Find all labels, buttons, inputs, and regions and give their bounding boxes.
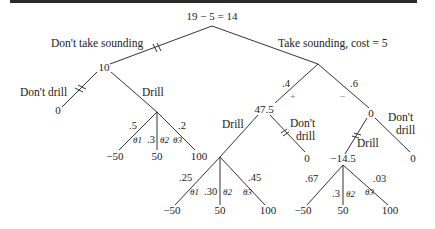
sign-positive: + bbox=[290, 91, 296, 102]
prob-positive: .4 bbox=[282, 78, 291, 89]
label-dont-take-sounding: Don't take sounding bbox=[51, 37, 143, 50]
prune-mark bbox=[157, 43, 161, 51]
prob-negative: .6 bbox=[350, 78, 358, 89]
label-dont-drill-positive-2: drill bbox=[296, 130, 315, 142]
label-drill-positive: Drill bbox=[222, 118, 244, 130]
state-label: θ2 bbox=[223, 187, 232, 197]
prob: .3 bbox=[147, 134, 155, 145]
label-drill-negative: Drill bbox=[357, 137, 379, 149]
state-label: θ2 bbox=[160, 135, 169, 145]
prob: .25 bbox=[179, 172, 192, 183]
state-label: θ1 bbox=[133, 135, 142, 145]
edge-outcome bbox=[343, 165, 388, 205]
label-drill-1: Drill bbox=[142, 86, 164, 98]
payoff: −50 bbox=[163, 204, 181, 216]
node-value-positive: 47.5 bbox=[254, 103, 274, 115]
payoff: −50 bbox=[294, 204, 312, 216]
state-label: θ2 bbox=[346, 189, 355, 199]
label-dont-drill-negative-2: drill bbox=[396, 124, 415, 136]
payoff-dont-drill-negative: 0 bbox=[410, 152, 416, 164]
payoff: 50 bbox=[215, 204, 227, 216]
prob: .5 bbox=[129, 120, 137, 131]
prob: .03 bbox=[373, 173, 386, 184]
payoff: 50 bbox=[338, 204, 350, 216]
node-value-negative: 0 bbox=[368, 107, 374, 119]
state-label: θ3 bbox=[173, 135, 182, 145]
state-label: θ1 bbox=[190, 187, 199, 197]
prob: .2 bbox=[178, 120, 186, 131]
prob: .3 bbox=[332, 188, 340, 199]
node-value-no-sounding: 10 bbox=[99, 61, 111, 73]
payoff: 100 bbox=[260, 204, 277, 216]
prob: .30 bbox=[204, 186, 217, 197]
payoff-dont-drill-positive: 0 bbox=[304, 152, 310, 164]
label-dont-drill-negative-1: Don't bbox=[388, 111, 414, 123]
edge-outcome bbox=[307, 165, 343, 205]
payoff: 100 bbox=[382, 204, 399, 216]
prune-mark bbox=[75, 88, 83, 92]
prob: .45 bbox=[248, 172, 261, 183]
payoff: 50 bbox=[152, 150, 164, 162]
payoff: −50 bbox=[106, 150, 124, 162]
edge-dont-drill-1 bbox=[62, 72, 97, 107]
sign-negative: − bbox=[340, 91, 346, 102]
prob: .67 bbox=[305, 173, 318, 184]
state-label: θ3 bbox=[365, 187, 374, 197]
node-value-drill-negative: −14.5 bbox=[330, 152, 356, 164]
prune-mark bbox=[78, 85, 86, 89]
payoff: 100 bbox=[191, 150, 208, 162]
root-value: 19 − 5 = 14 bbox=[187, 10, 238, 22]
label-dont-drill-positive-1: Don't bbox=[290, 117, 316, 129]
state-label: θ3 bbox=[243, 187, 252, 197]
label-take-sounding: Take sounding, cost = 5 bbox=[278, 37, 388, 50]
label-dont-drill-1: Don't drill bbox=[20, 86, 67, 98]
decision-tree-diagram: 19 − 5 = 14 Don't take sounding Take sou… bbox=[0, 0, 435, 229]
payoff-dont-drill-1: 0 bbox=[55, 104, 61, 116]
